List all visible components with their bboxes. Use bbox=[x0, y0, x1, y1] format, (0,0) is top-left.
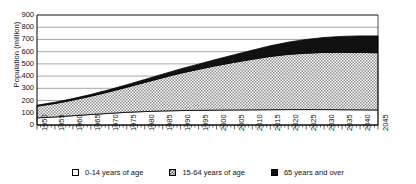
plot-area bbox=[0, 0, 416, 184]
legend-label: 15-64 years of age bbox=[182, 168, 245, 177]
x-axis-tick-marks bbox=[37, 125, 378, 130]
chart-legend: 0-14 years of age15-64 years of age65 ye… bbox=[0, 162, 416, 182]
legend-swatch-2 bbox=[271, 169, 278, 176]
series-areas bbox=[37, 36, 378, 125]
legend-item[interactable]: 65 years and over bbox=[271, 168, 344, 177]
legend-label: 65 years and over bbox=[284, 168, 344, 177]
legend-swatch-1 bbox=[169, 169, 176, 176]
legend-swatch-0 bbox=[72, 169, 79, 176]
legend-item[interactable]: 0-14 years of age bbox=[72, 168, 143, 177]
population-stacked-area-chart: Population (million) 0100200300400500600… bbox=[0, 0, 416, 184]
legend-item[interactable]: 15-64 years of age bbox=[169, 168, 245, 177]
legend-label: 0-14 years of age bbox=[85, 168, 143, 177]
